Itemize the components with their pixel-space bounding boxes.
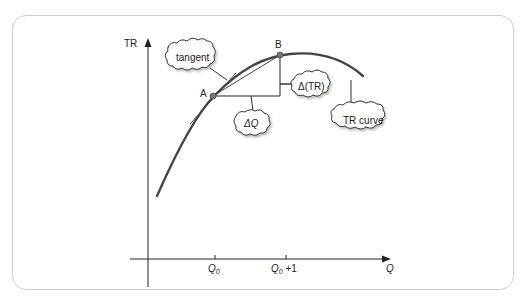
callout-tangent-text: tangent [176,52,210,63]
callout-tr-curve-text: TR curve [343,115,384,126]
callout-delta-q: ΔQ [234,96,270,135]
callout-delta-tr-text: Δ(TR) [298,81,325,92]
tr-curve-diagram: TR Q Q0 Q0 +1 A B tangent ΔQ Δ(TR) TR cu… [0,0,529,302]
chord-ab [213,55,280,96]
tick-label-q0-plus-1: Q0 +1 [271,263,297,275]
tick-label-q0: Q0 [208,263,220,275]
y-axis-arrow-icon [145,38,152,47]
x-axis [130,255,391,263]
callout-delta-q-text: ΔQ [243,118,259,129]
point-b-label: B [275,39,282,50]
callout-delta-tr: Δ(TR) [280,70,330,97]
y-axis [145,38,152,287]
x-axis-arrow-icon [382,256,391,263]
y-axis-label: TR [124,38,137,49]
point-a-label: A [200,88,207,99]
callout-tr-curve: TR curve [331,80,385,129]
point-b [277,52,283,58]
point-a [210,93,216,99]
x-axis-label: Q [386,263,394,274]
callout-tangent: tangent [165,38,227,80]
